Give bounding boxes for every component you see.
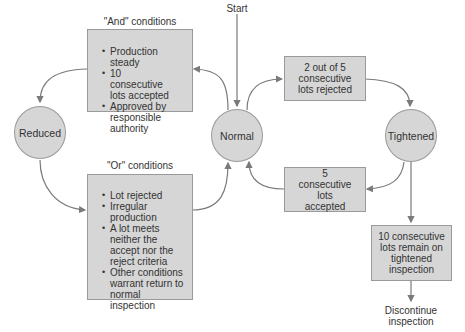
discontinue-label: Discontinue inspection (381, 305, 441, 327)
transition-tightened-to-normal: 5 consecutive lots accepted (284, 167, 366, 212)
and-condition-item: Approved by responsible authority (110, 101, 194, 134)
or-condition-item: Irregular production (110, 201, 160, 223)
and-conditions-box: Production steady 10 consecutive lots ac… (87, 29, 193, 112)
or-conditions-title: "Or" conditions (87, 160, 193, 171)
state-reduced: Reduced (14, 106, 66, 159)
transition-normal-to-tightened-label: 2 out of 5 consecutive lots rejected (291, 62, 359, 95)
or-condition-item: Other conditions warrant return to norma… (110, 267, 186, 311)
state-reduced-label: Reduced (19, 127, 61, 139)
or-condition-item: Lot rejected (110, 190, 188, 201)
state-normal: Normal (211, 109, 263, 162)
start-label: Start (223, 3, 251, 14)
state-tightened: Tightened (385, 109, 437, 162)
transition-tightened-to-discontinue-label: 10 consecutive lots remain on tightened … (378, 231, 445, 275)
transition-tightened-to-discontinue: 10 consecutive lots remain on tightened … (371, 225, 452, 281)
state-tightened-label: Tightened (388, 130, 434, 142)
and-condition-item: 10 consecutive lots accepted (110, 68, 172, 101)
or-conditions-box: Lot rejected Irregular production A lot … (87, 174, 193, 300)
transition-normal-to-tightened: 2 out of 5 consecutive lots rejected (284, 56, 366, 101)
state-normal-label: Normal (220, 130, 254, 142)
and-condition-item: Production steady (110, 46, 188, 68)
and-conditions-title: "And" conditions (87, 16, 193, 27)
or-condition-item: A lot meets neither the accept nor the r… (110, 223, 188, 267)
connector-arrows (0, 0, 465, 332)
transition-tightened-to-normal-label: 5 consecutive lots accepted (299, 168, 352, 212)
